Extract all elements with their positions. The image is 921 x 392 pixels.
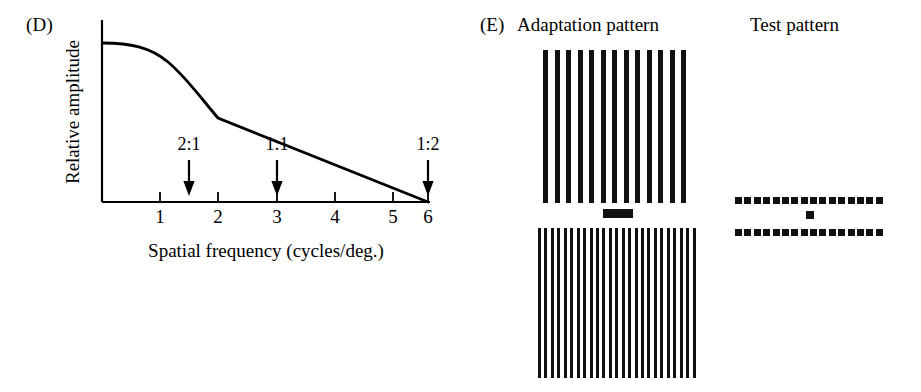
grating-bar: [570, 228, 573, 378]
grating-bar: [673, 228, 676, 378]
grating-bar: [612, 50, 617, 203]
test-dash: [866, 197, 873, 204]
grating-bar: [543, 50, 548, 203]
test-dash: [782, 197, 789, 204]
test-dash: [838, 229, 845, 236]
grating-bar: [602, 228, 605, 378]
grating-bar: [686, 228, 689, 378]
test-dash: [791, 229, 798, 236]
x-tick-label-6: 6: [416, 206, 440, 228]
grating-bar: [635, 228, 638, 378]
test-dash: [754, 229, 761, 236]
grating-bar: [647, 50, 652, 203]
grating-bar: [589, 50, 594, 203]
test-dash: [810, 229, 817, 236]
grating-bar: [590, 228, 593, 378]
grating-bar: [551, 228, 554, 378]
adaptation-grating-low-frequency: [543, 50, 693, 203]
panel-d: (D) Relative amplitude: [0, 0, 470, 300]
grating-bar: [670, 50, 675, 203]
test-dash: [819, 197, 826, 204]
adaptation-grating-high-frequency: [538, 228, 699, 378]
grating-bar: [624, 50, 629, 203]
grating-bar: [660, 228, 663, 378]
test-dash: [801, 229, 808, 236]
grating-bar: [564, 228, 567, 378]
grating-bar: [628, 228, 631, 378]
grating-bar: [622, 228, 625, 378]
adaptation-fixation-bar: [603, 209, 633, 218]
test-dash: [819, 229, 826, 236]
test-dash: [791, 197, 798, 204]
test-grating-row-top: [735, 197, 885, 204]
grating-bar: [577, 228, 580, 378]
grating-bar: [641, 228, 644, 378]
test-dash: [744, 229, 751, 236]
test-grating-row-bottom: [735, 229, 885, 236]
test-dash: [754, 197, 761, 204]
grating-bar: [667, 228, 670, 378]
grating-bar: [635, 50, 640, 203]
x-tick-label-2: 2: [206, 206, 230, 228]
grating-bar: [555, 50, 560, 203]
test-dash: [857, 229, 864, 236]
x-axis-label: Spatial frequency (cycles/deg.): [86, 240, 446, 262]
test-dash: [773, 229, 780, 236]
grating-bar: [583, 228, 586, 378]
annotation-arrow-1-2: [422, 160, 433, 196]
ratio-label-1-2: 1:2: [406, 134, 450, 155]
test-dash: [735, 229, 742, 236]
test-dash: [838, 197, 845, 204]
test-dash: [744, 197, 751, 204]
test-pattern-title: Test pattern: [750, 14, 839, 36]
test-dash: [876, 197, 883, 204]
grating-bar: [596, 228, 599, 378]
test-dash: [773, 197, 780, 204]
grating-bar: [647, 228, 650, 378]
grating-bar: [557, 228, 560, 378]
grating-bar: [693, 228, 696, 378]
grating-bar: [609, 228, 612, 378]
test-dash: [763, 197, 770, 204]
x-tick-label-1: 1: [148, 206, 172, 228]
test-dash: [829, 197, 836, 204]
amplitude-curve: [103, 43, 428, 202]
test-dash: [866, 229, 873, 236]
grating-bar: [680, 228, 683, 378]
grating-bar: [538, 228, 541, 378]
test-dash: [848, 229, 855, 236]
test-dash: [876, 229, 883, 236]
annotation-arrow-2-1: [183, 160, 194, 196]
adaptation-pattern-title: Adaptation pattern: [517, 14, 659, 36]
grating-bar: [578, 50, 583, 203]
grating-bar: [654, 228, 657, 378]
grating-bar: [681, 50, 686, 203]
test-fixation-square: [806, 211, 814, 219]
x-tick-label-4: 4: [323, 206, 347, 228]
x-tick-label-3: 3: [265, 206, 289, 228]
grating-bar: [601, 50, 606, 203]
grating-bar: [658, 50, 663, 203]
test-dash: [857, 197, 864, 204]
ratio-label-1-1: 1:1: [255, 134, 299, 155]
test-dash: [801, 197, 808, 204]
test-dash: [782, 229, 789, 236]
test-dash: [810, 197, 817, 204]
annotation-arrow-1-1: [271, 160, 282, 196]
test-dash: [763, 229, 770, 236]
test-dash: [848, 197, 855, 204]
grating-bar: [544, 228, 547, 378]
figure-panel-group: (D) Relative amplitude: [0, 0, 921, 392]
panel-e-label: (E): [480, 14, 504, 36]
x-axis-ticks: [160, 192, 428, 202]
panel-e: (E) Adaptation pattern Test pattern: [470, 0, 921, 392]
test-dash: [829, 229, 836, 236]
grating-bar: [615, 228, 618, 378]
grating-bar: [566, 50, 571, 203]
ratio-label-2-1: 2:1: [167, 134, 211, 155]
x-tick-label-5: 5: [381, 206, 405, 228]
test-dash: [735, 197, 742, 204]
